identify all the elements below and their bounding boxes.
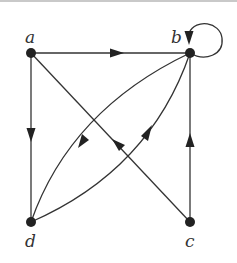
arrow-c-a [112, 139, 125, 151]
label-d: d [25, 231, 36, 251]
arrow-c-b [186, 133, 195, 147]
label-b: b [171, 27, 182, 47]
label-a: a [25, 27, 35, 47]
node-c [185, 217, 195, 227]
graph-diagram: a b c d [0, 0, 237, 263]
node-d [26, 217, 36, 227]
node-b [185, 48, 195, 58]
edge-c-a [31, 53, 190, 222]
arrow-a-b [110, 49, 124, 58]
arrow-a-d [27, 128, 36, 142]
node-a [26, 48, 36, 58]
label-c: c [185, 231, 195, 251]
arrow-b-b [185, 31, 194, 45]
